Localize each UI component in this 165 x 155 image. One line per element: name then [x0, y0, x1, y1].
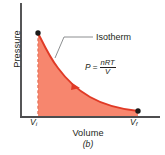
panel-label: (b) [30, 139, 146, 149]
y-axis-label: Pressure [12, 14, 22, 84]
isotherm-callout-label: Isotherm [96, 32, 131, 42]
x-tick-initial-volume-subscript: i [36, 120, 37, 127]
equation-numerator: nRT [100, 59, 116, 67]
x-tick-final-volume: Vf [130, 117, 137, 127]
ideal-gas-equation: P = nRT V [85, 59, 116, 75]
final-state-dot [135, 108, 140, 113]
isotherm-leader-line [55, 37, 93, 58]
x-axis-label: Volume [30, 128, 146, 138]
initial-state-dot [35, 30, 40, 35]
equation-equals: = [93, 62, 98, 72]
equation-lhs: P [85, 62, 91, 72]
x-tick-final-volume-subscript: f [136, 120, 138, 127]
x-tick-initial-volume: Vi [30, 117, 37, 127]
pv-isotherm-figure: Pressure Volume (b) Vi Vf Isotherm P = n… [0, 0, 165, 155]
equation-denominator: V [104, 68, 111, 76]
equation-fraction: nRT V [100, 59, 116, 75]
